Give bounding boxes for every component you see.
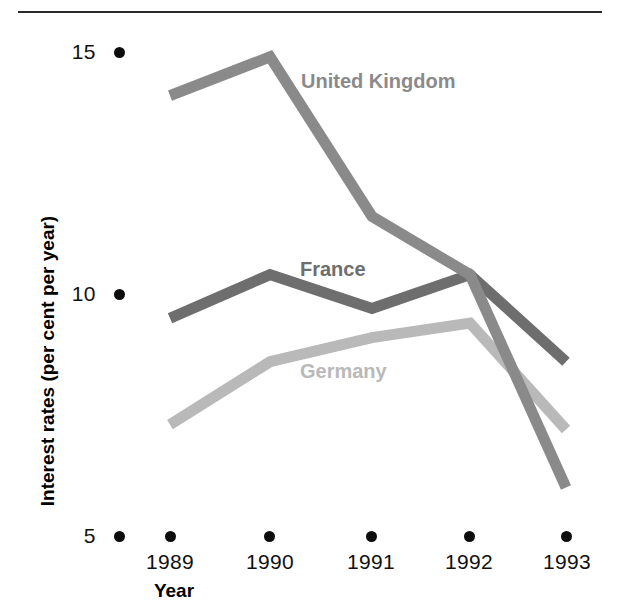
- top-divider-rule: [18, 11, 602, 13]
- series-line-united-kingdom: [170, 57, 566, 488]
- x-tick-label-1990: 1990: [235, 550, 305, 574]
- line-chart-figure: 15 10 5 1989 1990 1991 1992 1993 Interes…: [0, 0, 619, 614]
- x-tick-label-1989: 1989: [135, 550, 205, 574]
- series-label-france: France: [300, 258, 366, 281]
- x-axis-title: Year: [139, 580, 209, 602]
- x-tick-label-1993: 1993: [532, 550, 602, 574]
- x-tick-dot-1989: [165, 531, 176, 542]
- x-tick-dot-1993: [561, 531, 572, 542]
- x-tick-dot-1990: [264, 531, 275, 542]
- y-axis-title: Interest rates (per cent per year): [37, 196, 59, 526]
- y-tick-label-10: 10: [62, 282, 96, 306]
- y-tick-dot-15: [114, 47, 125, 58]
- y-tick-dot-5: [114, 531, 125, 542]
- x-tick-label-1991: 1991: [336, 550, 406, 574]
- x-tick-dot-1992: [464, 531, 475, 542]
- y-tick-label-15: 15: [62, 40, 96, 64]
- x-tick-dot-1991: [366, 531, 377, 542]
- series-line-france: [170, 275, 566, 362]
- y-tick-dot-10: [114, 289, 125, 300]
- x-tick-label-1992: 1992: [434, 550, 504, 574]
- series-label-germany: Germany: [300, 360, 387, 383]
- y-tick-label-5: 5: [62, 524, 96, 548]
- series-label-united-kingdom: United Kingdom: [301, 70, 455, 93]
